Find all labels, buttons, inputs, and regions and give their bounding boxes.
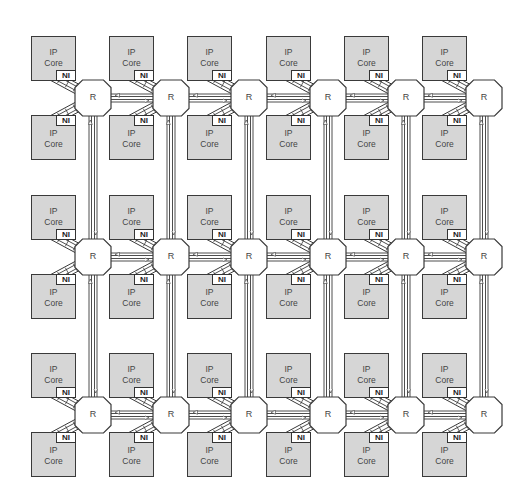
core-label-ip: IP	[345, 287, 388, 297]
core-label-ip: IP	[188, 445, 231, 455]
core-label-core: Core	[423, 375, 466, 385]
v-link-c3-r0	[323, 116, 333, 239]
ip-core-bottom-r0-c2: IPCoreNI	[187, 115, 232, 160]
network-interface: NI	[291, 387, 311, 398]
network-interface: NI	[369, 115, 389, 126]
h-link-r0-c3	[346, 93, 388, 103]
core-label-core: Core	[267, 58, 310, 68]
h-link-r0-c1	[189, 93, 231, 103]
network-interface: NI	[212, 387, 232, 398]
ip-core-top-r0-c3: IPCoreNI	[266, 36, 311, 81]
router-label: R	[396, 92, 416, 102]
ip-core-top-r2-c1: IPCoreNI	[109, 353, 154, 398]
core-label-ip: IP	[188, 47, 231, 57]
network-interface: NI	[134, 432, 154, 443]
core-label-ip: IP	[423, 128, 466, 138]
core-label-ip: IP	[345, 445, 388, 455]
ip-core-bottom-r0-c4: IPCoreNI	[344, 115, 389, 160]
core-label-ip: IP	[267, 206, 310, 216]
ip-core-top-r1-c4: IPCoreNI	[344, 195, 389, 240]
core-label-ip: IP	[345, 47, 388, 57]
core-label-core: Core	[32, 217, 75, 227]
network-interface: NI	[56, 387, 76, 398]
ip-core-bottom-r0-c5: IPCoreNI	[422, 115, 467, 160]
core-label-core: Core	[110, 456, 153, 466]
core-label-ip: IP	[188, 364, 231, 374]
ip-core-top-r2-c2: IPCoreNI	[187, 353, 232, 398]
core-label-core: Core	[267, 375, 310, 385]
ip-core-top-r0-c4: IPCoreNI	[344, 36, 389, 81]
ip-core-bottom-r1-c3: IPCoreNI	[266, 274, 311, 319]
router-label: R	[396, 409, 416, 419]
core-label-core: Core	[267, 139, 310, 149]
core-label-core: Core	[188, 217, 231, 227]
ip-core-top-r1-c3: IPCoreNI	[266, 195, 311, 240]
h-link-r1-c4	[424, 252, 466, 262]
ip-core-bottom-r0-c1: IPCoreNI	[109, 115, 154, 160]
router-label: R	[83, 92, 103, 102]
core-label-ip: IP	[110, 287, 153, 297]
router-label: R	[161, 251, 181, 261]
core-label-ip: IP	[110, 364, 153, 374]
network-interface: NI	[291, 115, 311, 126]
network-interface: NI	[447, 229, 467, 240]
ip-core-top-r0-c2: IPCoreNI	[187, 36, 232, 81]
network-interface: NI	[369, 70, 389, 81]
ip-core-top-r1-c5: IPCoreNI	[422, 195, 467, 240]
core-label-ip: IP	[345, 206, 388, 216]
core-label-ip: IP	[32, 47, 75, 57]
network-interface: NI	[212, 115, 232, 126]
router-label: R	[474, 92, 494, 102]
network-interface: NI	[369, 274, 389, 285]
core-label-ip: IP	[188, 128, 231, 138]
h-link-r1-c2	[267, 252, 310, 262]
core-label-core: Core	[32, 456, 75, 466]
h-link-r2-c4	[424, 410, 466, 420]
network-interface: NI	[212, 274, 232, 285]
core-label-core: Core	[423, 456, 466, 466]
ip-core-bottom-r2-c1: IPCoreNI	[109, 432, 154, 477]
router-label: R	[239, 92, 259, 102]
ip-core-top-r2-c0: IPCoreNI	[31, 353, 76, 398]
h-link-r2-c3	[346, 410, 388, 420]
v-link-c4-r0	[401, 116, 411, 239]
core-label-core: Core	[345, 217, 388, 227]
core-label-core: Core	[345, 456, 388, 466]
core-label-core: Core	[32, 58, 75, 68]
core-label-ip: IP	[267, 445, 310, 455]
router-label: R	[161, 92, 181, 102]
core-label-core: Core	[345, 139, 388, 149]
router-label: R	[239, 409, 259, 419]
network-interface: NI	[212, 229, 232, 240]
network-interface: NI	[447, 115, 467, 126]
ip-core-bottom-r1-c5: IPCoreNI	[422, 274, 467, 319]
router-label: R	[474, 251, 494, 261]
core-label-core: Core	[345, 375, 388, 385]
core-label-core: Core	[345, 58, 388, 68]
core-label-ip: IP	[423, 364, 466, 374]
router-label: R	[83, 409, 103, 419]
router-label: R	[318, 92, 338, 102]
network-interface: NI	[134, 115, 154, 126]
core-label-ip: IP	[188, 287, 231, 297]
ip-core-bottom-r1-c1: IPCoreNI	[109, 274, 154, 319]
v-link-c5-r0	[479, 116, 489, 239]
core-label-core: Core	[110, 298, 153, 308]
network-interface: NI	[134, 229, 154, 240]
core-label-core: Core	[188, 456, 231, 466]
core-label-ip: IP	[110, 128, 153, 138]
v-link-c1-r0	[166, 116, 176, 239]
core-label-core: Core	[267, 217, 310, 227]
ip-core-top-r1-c0: IPCoreNI	[31, 195, 76, 240]
core-label-core: Core	[32, 139, 75, 149]
ip-core-bottom-r2-c5: IPCoreNI	[422, 432, 467, 477]
core-label-ip: IP	[267, 128, 310, 138]
network-interface: NI	[369, 432, 389, 443]
core-label-ip: IP	[110, 206, 153, 216]
v-link-c1-r1	[166, 275, 176, 397]
core-label-core: Core	[32, 375, 75, 385]
router-label: R	[396, 251, 416, 261]
router-label: R	[239, 251, 259, 261]
core-label-core: Core	[32, 298, 75, 308]
network-interface: NI	[291, 70, 311, 81]
